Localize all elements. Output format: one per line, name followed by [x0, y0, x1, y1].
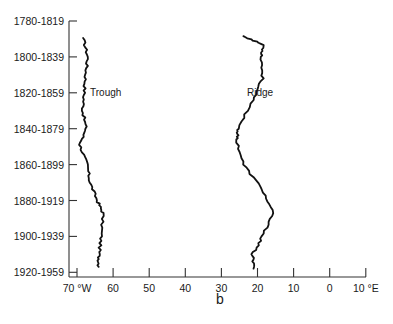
chart-canvas: 1780-18191800-18391820-18591840-18791860… [0, 0, 393, 324]
trough-line [79, 38, 104, 267]
x-tick-label: 60 [107, 282, 119, 294]
y-tick-label: 1840-1879 [14, 123, 64, 135]
x-tick-label: 40 [179, 282, 191, 294]
x-tick-label: 50 [143, 282, 155, 294]
ridge-line [236, 36, 273, 269]
y-tick-label: 1880-1919 [14, 195, 64, 207]
y-tick-label: 1900-1939 [14, 230, 64, 242]
y-tick-label: 1860-1899 [14, 159, 64, 171]
x-tick-label: 10 °E [353, 282, 379, 294]
y-tick-label: 1800-1839 [14, 51, 64, 63]
trough-label: Trough [90, 87, 121, 98]
x-tick-label: 10 [288, 282, 300, 294]
x-tick-label: 70 °W [63, 282, 92, 294]
y-tick-label: 1920-1959 [14, 266, 64, 278]
x-tick-label: 20 [252, 282, 264, 294]
x-tick-label: 0 [327, 282, 333, 294]
y-tick-label: 1780-1819 [14, 15, 64, 27]
y-tick-label: 1820-1859 [14, 87, 64, 99]
y-axis-ticks: 1780-18191800-18391820-18591840-18791860… [14, 15, 77, 278]
panel-label: b [216, 291, 224, 307]
ridge-label: Ridge [247, 87, 274, 98]
